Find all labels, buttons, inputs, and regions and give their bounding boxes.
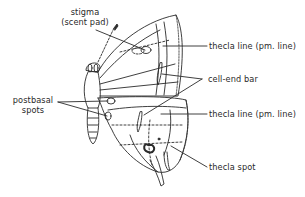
hindwing bbox=[98, 97, 188, 186]
head bbox=[86, 63, 100, 72]
thecla-line-lower-label: thecla line (pm. line) bbox=[209, 109, 296, 119]
stigma-label-line2: (scent pad) bbox=[50, 17, 120, 27]
stigma-label: stigma (scent pad) bbox=[50, 7, 120, 27]
forewing bbox=[98, 15, 182, 96]
postbasal-spots-label: postbasal spots bbox=[8, 95, 58, 115]
thecla-line-upper-label: thecla line (pm. line) bbox=[209, 41, 296, 51]
thorax bbox=[84, 72, 100, 108]
stigma-label-line1: stigma bbox=[50, 7, 120, 17]
thecla-spot-label: thecla spot bbox=[209, 162, 256, 172]
postbasal-label-line1: postbasal bbox=[8, 95, 58, 105]
cell-end-bar-label: cell-end bar bbox=[208, 74, 258, 84]
antenna bbox=[98, 24, 118, 62]
postbasal-label-line2: spots bbox=[8, 105, 58, 115]
